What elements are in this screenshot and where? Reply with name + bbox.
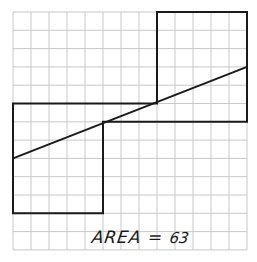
area-value: 63	[168, 229, 190, 247]
area-label: AREA = 63	[90, 226, 177, 248]
grid-diagram	[0, 0, 257, 262]
diagonal-line	[13, 67, 247, 158]
area-label-prefix: AREA =	[91, 227, 165, 247]
